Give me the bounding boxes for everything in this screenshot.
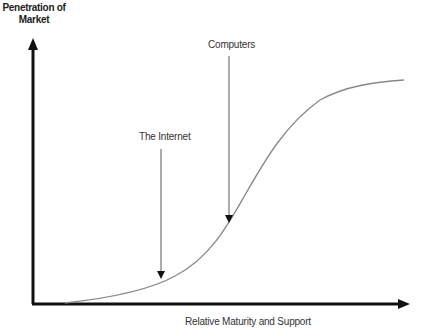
diagram-canvas xyxy=(0,0,421,330)
y-axis-arrowhead-icon xyxy=(28,38,38,50)
internet-arrowhead-icon xyxy=(157,271,165,279)
x-axis-arrowhead-icon xyxy=(398,299,410,309)
adoption-s-curve xyxy=(65,80,404,303)
computers-arrowhead-icon xyxy=(225,215,233,223)
y-axis xyxy=(28,38,38,304)
computers-arrow xyxy=(225,56,233,223)
internet-arrow xyxy=(157,149,165,279)
